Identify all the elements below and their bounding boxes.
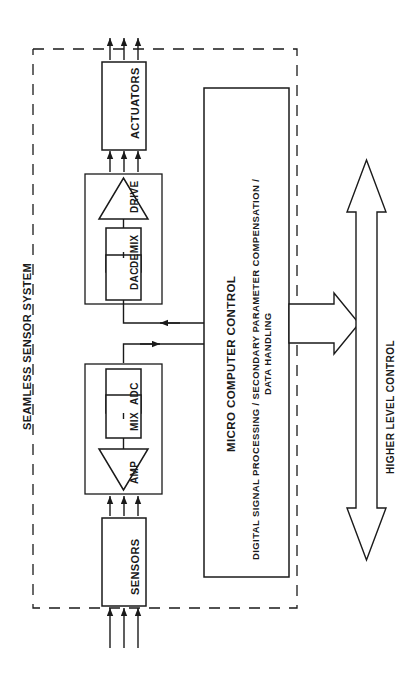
demix-label: DEMIX <box>130 234 140 268</box>
sensors-to-amp-lines <box>110 496 138 516</box>
dac-label: DAC <box>130 267 140 290</box>
block-diagram-canvas: SEAMLESS SENSOR SYSTEM ACTUATORS DRIVE D… <box>0 0 407 675</box>
higher-level-control-label: HIGHER LEVEL CONTROL <box>386 340 396 474</box>
controller-to-higher-level-block-arrow <box>289 293 359 354</box>
drive-to-actuators-lines <box>110 151 138 172</box>
adc-label: ADC <box>130 382 140 405</box>
controller-subtitle-line-2: DATA HANDLING <box>263 312 273 395</box>
adc-to-controller-path <box>124 344 206 363</box>
drive-label: DRIVE <box>130 180 140 213</box>
diagram-vector-layer <box>0 0 407 675</box>
actuators-label: ACTUATORS <box>130 67 141 139</box>
sensor-input-lines <box>110 608 138 648</box>
micro-computer-control-title: MICRO COMPUTER CONTROL <box>226 276 238 452</box>
controller-subtitle-line-1: DIGITAL SIGNAL PROCESSING / SECONDARY PA… <box>251 179 261 560</box>
micro-computer-control-block <box>204 88 289 577</box>
higher-level-control-double-arrow <box>347 158 390 560</box>
sensors-label: SENSORS <box>130 538 141 595</box>
mix-label: MIX <box>130 412 140 431</box>
system-boundary-label: SEAMLESS SENSOR SYSTEM <box>22 263 33 430</box>
amp-label: AMP <box>130 461 140 484</box>
